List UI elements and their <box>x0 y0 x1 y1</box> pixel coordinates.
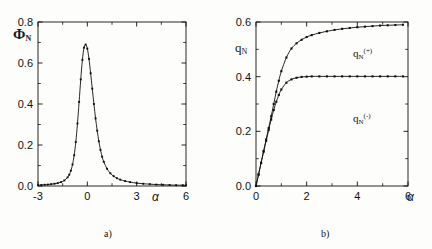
data-point-marker <box>57 182 59 184</box>
data-point-marker <box>93 103 95 105</box>
data-point-marker <box>364 75 366 77</box>
panel-a: -30360.00.20.40.60.8 ΦN α a) <box>0 0 216 249</box>
data-point-marker <box>116 177 118 179</box>
data-point-marker <box>109 172 111 174</box>
data-point-marker <box>47 184 49 186</box>
data-point-marker <box>273 103 275 105</box>
data-point-marker <box>306 76 308 78</box>
data-point-marker <box>371 25 373 27</box>
panel-b-xlabel: α <box>407 190 414 204</box>
panel-b: 02460.00.20.40.6 qN α qN(+) qN(-) b) <box>216 0 432 249</box>
data-point-marker <box>260 162 262 164</box>
xtick-label: 4 <box>354 190 360 202</box>
curve-label-q-minus: qN(-) <box>353 112 371 124</box>
data-point-marker <box>402 75 404 77</box>
data-point-marker <box>326 30 328 32</box>
data-point-marker <box>356 26 358 28</box>
xtick-label: 0 <box>253 190 259 202</box>
xtick-label: 2 <box>304 190 310 202</box>
data-point-marker <box>142 183 144 185</box>
data-point-marker <box>182 184 184 186</box>
data-point-marker <box>106 168 108 170</box>
data-point-marker <box>40 184 42 186</box>
data-point-marker <box>270 119 272 121</box>
curve-label-q-plus: qN(+) <box>353 47 372 59</box>
data-point-marker <box>257 173 259 175</box>
figure-root: -30360.00.20.40.60.8 ΦN α a) 02460.00.20… <box>0 0 432 249</box>
data-point-marker <box>318 75 320 77</box>
data-point-marker <box>356 75 358 77</box>
data-point-marker <box>50 183 52 185</box>
data-point-marker <box>100 149 102 151</box>
data-point-marker <box>95 117 97 119</box>
data-point-marker <box>44 184 46 186</box>
data-point-marker <box>341 75 343 77</box>
data-point-marker <box>306 36 308 38</box>
data-point-marker <box>149 183 151 185</box>
data-point-marker <box>275 91 277 93</box>
data-point-marker <box>37 184 39 186</box>
data-point-marker <box>83 47 85 49</box>
data-point-marker <box>255 185 257 187</box>
data-point-marker <box>387 75 389 77</box>
data-point-marker <box>295 42 297 44</box>
panel-a-plot: -30360.00.20.40.60.8 <box>0 0 216 249</box>
data-point-marker <box>67 176 69 178</box>
data-point-marker <box>387 24 389 26</box>
data-point-marker <box>70 170 72 172</box>
data-point-marker <box>129 181 131 183</box>
data-point-marker <box>278 80 280 82</box>
data-point-marker <box>318 32 320 34</box>
data-point-marker <box>96 130 98 132</box>
data-point-marker <box>402 24 404 26</box>
ytick-label: 0.2 <box>236 125 251 137</box>
data-point-marker <box>185 184 187 186</box>
ytick-label: 0.0 <box>236 180 251 192</box>
data-point-marker <box>364 26 366 28</box>
data-point-marker <box>285 82 287 84</box>
data-point-marker <box>341 28 343 30</box>
data-point-marker <box>311 34 313 36</box>
panel-b-caption: b) <box>321 228 329 239</box>
data-point-marker <box>394 75 396 77</box>
data-point-marker <box>162 184 164 186</box>
xtick-label: 3 <box>134 190 140 202</box>
data-point-marker <box>86 48 88 50</box>
xtick-label: -3 <box>33 190 43 202</box>
data-point-marker <box>136 182 138 184</box>
ytick-label: 0.6 <box>18 57 33 69</box>
data-point-marker <box>349 27 351 29</box>
data-point-marker <box>273 109 275 111</box>
data-point-marker <box>53 183 55 185</box>
ytick-label: 0.4 <box>18 98 33 110</box>
panel-a-caption: a) <box>104 228 112 239</box>
ytick-label: 0.4 <box>236 71 251 83</box>
data-point-marker <box>290 78 292 80</box>
ytick-label: 0.0 <box>18 180 33 192</box>
data-point-marker <box>265 140 267 142</box>
data-point-marker <box>333 75 335 77</box>
data-point-marker <box>101 156 103 158</box>
data-point-marker <box>371 75 373 77</box>
data-point-marker <box>278 94 280 96</box>
data-point-marker <box>91 88 93 90</box>
data-point-marker <box>60 181 62 183</box>
data-point-marker <box>75 141 77 143</box>
data-point-marker <box>169 184 171 186</box>
data-point-marker <box>80 78 82 80</box>
data-point-marker <box>301 39 303 41</box>
data-point-marker <box>124 180 126 182</box>
data-point-marker <box>78 101 80 103</box>
data-point-marker <box>379 25 381 27</box>
data-point-marker <box>119 179 121 181</box>
data-point-marker <box>175 184 177 186</box>
data-point-marker <box>295 77 297 79</box>
data-point-marker <box>81 59 83 61</box>
data-point-marker <box>77 123 79 125</box>
data-point-marker <box>63 180 65 182</box>
data-point-marker <box>326 75 328 77</box>
data-point-marker <box>280 88 282 90</box>
data-point-marker <box>103 161 105 163</box>
data-point-marker <box>285 56 287 58</box>
data-point-marker <box>290 47 292 49</box>
